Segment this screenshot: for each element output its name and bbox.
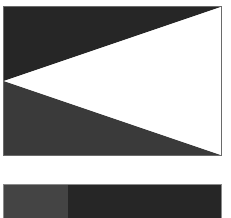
color-bar-right-segment xyxy=(68,185,221,218)
color-bar-left-segment xyxy=(4,185,68,218)
color-bar xyxy=(3,184,222,218)
swallowtail-flag-shape xyxy=(3,6,222,156)
flag-graphic xyxy=(4,7,221,155)
figure xyxy=(0,0,231,218)
